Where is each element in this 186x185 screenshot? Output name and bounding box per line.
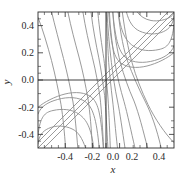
x-axis-title: x [110,163,116,175]
y-tick-label-3: -0.2 [18,102,34,113]
chart-figure: -0.4 -0.2 0.0 0.2 0.4 0.4 0.2 0.0 -0.2 -… [0,0,186,185]
y-tick-label-2: 0.0 [22,74,35,85]
y-tick-label-4: -0.4 [18,129,34,140]
x-tick-label-3: 0.2 [126,151,139,162]
y-tick-label-1: 0.2 [22,47,35,58]
x-tick-label-0: -0.4 [57,151,73,162]
x-tick-label-4: 0.4 [153,151,166,162]
phase-portrait-plot: -0.4 -0.2 0.0 0.2 0.4 0.4 0.2 0.0 -0.2 -… [0,0,186,185]
y-tick-label-0: 0.4 [22,20,35,31]
x-tick-label-2: 0.0 [107,151,120,162]
x-tick-label-1: -0.2 [84,151,100,162]
y-axis-title: y [0,79,12,85]
